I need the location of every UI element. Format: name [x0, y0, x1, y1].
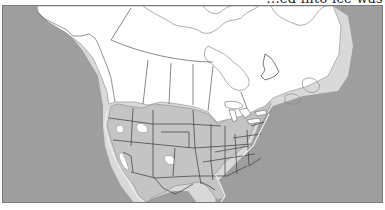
ice-age-map: [2, 5, 383, 203]
page-margin: [0, 203, 385, 210]
map-graphic: [3, 6, 383, 203]
